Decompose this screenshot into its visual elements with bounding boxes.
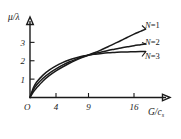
chart-figure: 4916 123 N=1N=2N=3 O μ/λ G/cs <box>0 0 181 139</box>
x-tick-labels: 4916 <box>54 102 139 112</box>
series-label-n-1: N=1 <box>144 20 160 30</box>
curve-n-1 <box>30 29 146 97</box>
x-axis-label: G/cs <box>148 107 165 118</box>
curves-group <box>30 29 146 97</box>
x-tick-label: 9 <box>86 102 91 112</box>
x-tick-label: 4 <box>54 102 59 112</box>
y-tick-label: 1 <box>21 75 26 85</box>
series-label-n-2: N=2 <box>144 37 160 47</box>
x-tick-label: 16 <box>130 102 140 112</box>
y-tick-label: 3 <box>20 38 26 48</box>
origin-label: O <box>24 102 31 112</box>
y-axis-label: μ/λ <box>7 12 20 22</box>
y-tick-label: 2 <box>21 56 26 66</box>
series-label-n-3: N=3 <box>144 51 160 61</box>
line-chart-svg: 4916 123 N=1N=2N=3 O μ/λ G/cs <box>0 0 181 139</box>
y-tick-labels: 123 <box>20 38 26 85</box>
series-labels: N=1N=2N=3 <box>144 20 160 61</box>
